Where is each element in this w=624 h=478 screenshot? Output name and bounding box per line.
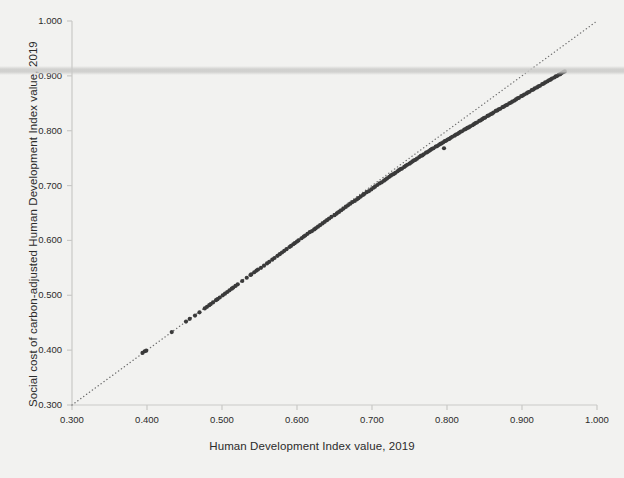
scatter-plot-canvas <box>0 0 624 478</box>
x-tick-label: 1.000 <box>577 414 617 425</box>
x-tick-label: 0.900 <box>502 414 542 425</box>
y-tick-label: 0.700 <box>28 180 62 191</box>
identity-reference-line <box>72 21 597 405</box>
y-tick-label: 0.500 <box>28 289 62 300</box>
data-point <box>245 276 249 280</box>
data-point <box>184 320 188 324</box>
data-point <box>240 279 244 283</box>
data-point <box>188 317 192 321</box>
x-tick-label: 0.400 <box>127 414 167 425</box>
x-tick-label: 0.800 <box>427 414 467 425</box>
y-tick-label: 0.600 <box>28 234 62 245</box>
x-tick-label: 0.500 <box>202 414 242 425</box>
data-point-group <box>140 69 566 355</box>
y-tick-label: 0.400 <box>28 344 62 355</box>
y-tick-label: 1.000 <box>28 15 62 26</box>
data-point <box>563 69 567 73</box>
data-point <box>236 282 240 286</box>
chart-figure: Human Development Index value, 2019 Soci… <box>0 0 624 478</box>
data-point <box>144 349 148 353</box>
x-tick-label: 0.300 <box>52 414 92 425</box>
y-tick-label: 0.900 <box>28 70 62 81</box>
x-axis-label: Human Development Index value, 2019 <box>0 440 624 452</box>
y-tick-label: 0.300 <box>28 399 62 410</box>
data-point <box>193 313 197 317</box>
data-point <box>197 310 201 314</box>
data-point <box>170 330 174 334</box>
data-point <box>442 146 446 150</box>
y-tick-label: 0.800 <box>28 125 62 136</box>
x-tick-label: 0.600 <box>277 414 317 425</box>
x-tick-label: 0.700 <box>352 414 392 425</box>
